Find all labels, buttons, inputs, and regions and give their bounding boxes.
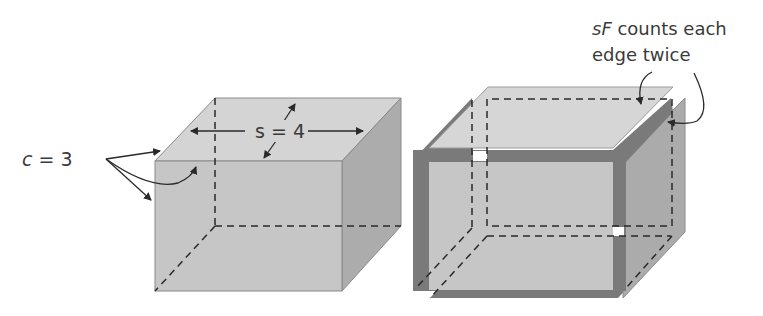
corner-variable: c (22, 148, 32, 170)
edge-length-label: s = 4 (253, 120, 307, 142)
gap-marker (473, 151, 487, 161)
corner-value: = 3 (32, 148, 72, 170)
annotation-text: counts each (612, 18, 727, 39)
corner-count-label: c = 3 (22, 148, 73, 170)
edge-variable: s (255, 120, 265, 142)
annotation-line-2: edge twice (592, 44, 690, 66)
gap-marker (613, 227, 624, 236)
annotation-variable: sF (592, 18, 612, 39)
annotation-line-1: sF counts each (592, 18, 727, 40)
edge-value: = 4 (265, 120, 305, 142)
right-cube (413, 72, 704, 298)
